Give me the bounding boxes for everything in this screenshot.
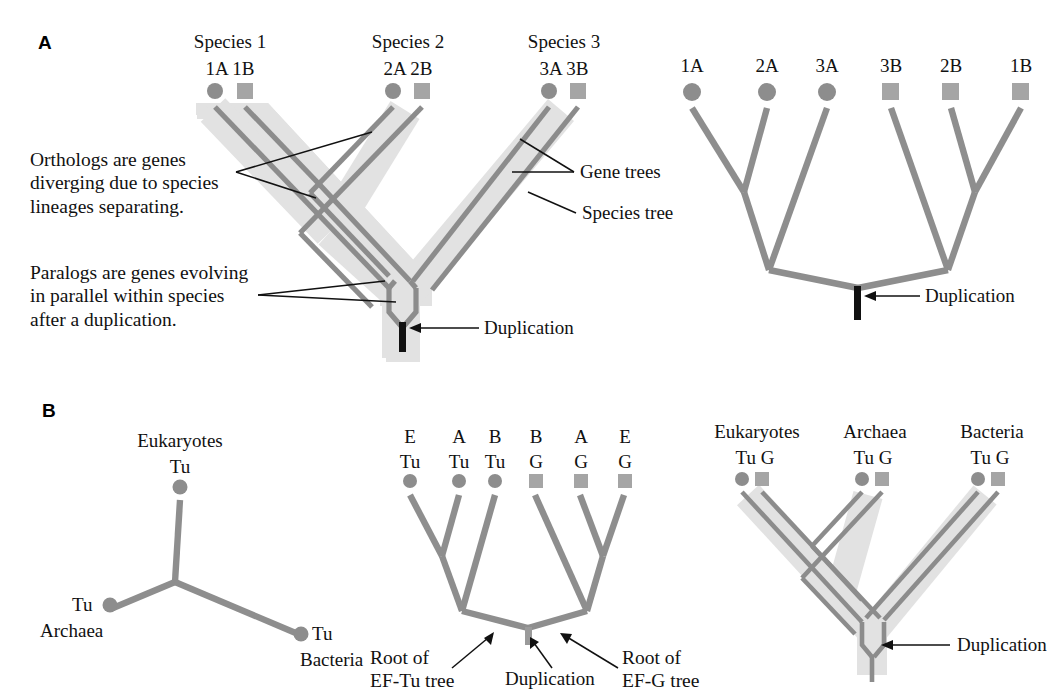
marker-archaea-tu: [103, 598, 118, 613]
right-tip-eukaryotes: Eukaryotes: [714, 421, 799, 443]
paralogs-leader-1: [258, 281, 385, 295]
branch-3A: [769, 108, 827, 270]
marker-euk-tu: [735, 472, 749, 486]
marker-2A-circle: [385, 83, 401, 99]
panel-b-middle-branches: [410, 495, 624, 628]
duplication-bar-panel-a-left: [399, 322, 406, 352]
branch-node1A2A: [744, 192, 769, 270]
branch-root-efg: [528, 611, 587, 628]
right-tip-archaea-genes: Tu G: [854, 447, 893, 469]
mid-tip-gene-5: G: [574, 451, 588, 473]
panel-a-left-markers: [207, 83, 586, 99]
unrooted-archaea-label: Archaea: [40, 620, 103, 642]
duplication-arrow-panel-b-middle: [530, 637, 552, 668]
gene-trees-label: Gene trees: [580, 161, 661, 183]
marker-eukaryotes-tu: [173, 480, 188, 495]
marker-r-1A-circle: [683, 83, 701, 101]
marker-r-2B-square: [942, 83, 959, 100]
marker-euk-g: [755, 472, 769, 486]
panel-b-unrooted-tree: [103, 480, 309, 642]
branch-1B: [975, 108, 1021, 192]
right-tip-eukaryotes-genes: Tu G: [736, 447, 775, 469]
branch-1A: [692, 108, 744, 192]
duplication-arrow-panel-b-right: [881, 640, 950, 650]
species-3-name: Species 3: [528, 31, 600, 53]
marker-2B-square: [414, 83, 430, 99]
mid-tip-gene-4: G: [529, 451, 543, 473]
mid-tip-taxon-5: A: [574, 426, 588, 448]
panel-b-right-markers: [735, 472, 1005, 486]
branch-E-G: [603, 495, 624, 556]
duplication-arrow-panel-a-left: [409, 323, 479, 333]
branch-bacteria-tu: [175, 582, 298, 634]
root-eftu-label: Root of EF-Tu tree: [370, 646, 454, 693]
branch-eukaryotes-tu: [175, 500, 180, 582]
right-tip-archaea: Archaea: [843, 421, 906, 443]
marker-B-Tu: [488, 474, 502, 488]
marker-1B-square: [237, 83, 253, 99]
paralogs-description: Paralogs are genes evolving in parallel …: [30, 261, 248, 331]
panel-b-middle-tree: [403, 474, 632, 668]
panel-letter-b: B: [42, 400, 56, 422]
bg-bac-g: [884, 492, 998, 620]
branch-A-Tu: [442, 495, 459, 556]
tip-label-2B: 2B: [940, 55, 962, 77]
mid-tip-taxon-6: E: [619, 426, 631, 448]
orthologs-description: Orthologs are genes diverging due to spe…: [30, 148, 219, 218]
marker-r-3B-square: [882, 83, 899, 100]
mid-tip-gene-1: Tu: [400, 451, 420, 473]
marker-A-Tu: [452, 474, 466, 488]
species-tree-label: Species tree: [582, 202, 673, 224]
marker-E-Tu: [403, 474, 417, 488]
figure-root: A B Species 1 1A 1B Species 2 2A 2B Spec…: [0, 0, 1057, 696]
species-2-genes: 2A 2B: [383, 58, 432, 80]
duplication-bar-panel-a-right: [854, 286, 861, 320]
mid-tip-taxon-1: E: [404, 426, 416, 448]
species-2-name: Species 2: [372, 31, 444, 53]
gene-line-3B: [432, 107, 578, 290]
panel-a-right-branches: [692, 108, 1021, 288]
tip-label-1B: 1B: [1010, 55, 1032, 77]
marker-E-G: [618, 474, 632, 488]
band-species3: [403, 110, 561, 298]
bg-bac-tu: [866, 492, 978, 618]
tip-label-1A: 1A: [680, 55, 703, 77]
branch-node2B1B: [948, 192, 975, 270]
branch-node-AG-EG: [587, 556, 603, 611]
mid-tip-taxon-3: B: [489, 426, 502, 448]
branch-3B: [891, 108, 948, 270]
tip-label-2A: 2A: [755, 55, 778, 77]
root-eftu-arrow: [452, 632, 494, 668]
branch-root-eftu: [462, 611, 528, 628]
right-tip-bacteria-genes: Tu G: [971, 447, 1010, 469]
marker-r-3A-circle: [818, 83, 836, 101]
marker-3B-square: [570, 83, 586, 99]
panel-a-right-markers: [683, 83, 1029, 101]
branch-2A: [744, 108, 767, 192]
unrooted-bacteria-gene: Tu: [312, 623, 332, 645]
species-3-genes: 3A 3B: [539, 58, 588, 80]
marker-bac-tu: [971, 472, 985, 486]
figure-artwork: [0, 0, 1057, 696]
mid-tip-taxon-2: A: [452, 426, 466, 448]
marker-1A-circle: [207, 83, 223, 99]
branch-A-G: [580, 495, 603, 556]
root-efg-arrow: [560, 633, 618, 668]
tip-label-3A: 3A: [815, 55, 838, 77]
branch-archaea-tu: [113, 582, 175, 608]
tip-label-3B: 3B: [880, 55, 902, 77]
duplication-label-panel-b-right: Duplication: [957, 634, 1047, 656]
branch-node-ETu-ATu: [442, 556, 462, 611]
panel-letter-a: A: [38, 32, 52, 54]
marker-B-G: [529, 474, 543, 488]
duplication-arrow-panel-a-right: [864, 291, 920, 301]
panel-b-middle-markers: [403, 474, 632, 488]
branch-nodeA-root: [769, 270, 858, 288]
branch-B-Tu: [462, 495, 495, 611]
unrooted-eukaryotes-gene: Tu: [170, 456, 190, 478]
marker-bac-g: [991, 472, 1005, 486]
species-1-name: Species 1: [194, 31, 266, 53]
marker-arc-tu: [855, 472, 869, 486]
root-efg-label: Root of EF-G tree: [622, 646, 699, 693]
right-tip-bacteria: Bacteria: [960, 421, 1023, 443]
